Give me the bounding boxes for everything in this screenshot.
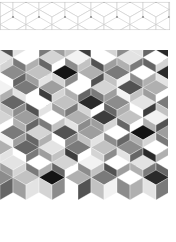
- vertex-dot: [142, 16, 144, 18]
- vertex-dot: [77, 31, 79, 32]
- rhombus-face-top: [169, 80, 176, 95]
- vertex-dot: [103, 31, 105, 32]
- vertex-dot: [155, 31, 157, 32]
- rhombus-face-top: [130, 0, 156, 2]
- rhombus-face-top: [169, 140, 176, 155]
- rhombus-face-left: [169, 148, 176, 171]
- rhombille-filled-svg: [0, 50, 176, 242]
- vertex-dot: [51, 31, 53, 32]
- vertex-dot: [25, 31, 27, 32]
- vertex-dot: [64, 16, 66, 18]
- rhombus-face-left: [169, 58, 176, 81]
- rhombus-face-top: [0, 0, 26, 2]
- tiling-group: [0, 0, 176, 32]
- vertex-dot: [77, 31, 79, 32]
- rhombus-face-top: [156, 0, 176, 2]
- rhombus-face-right: [169, 133, 176, 156]
- vertex-dot: [90, 16, 92, 18]
- rhombus-face-right: [169, 163, 176, 186]
- vertex-dot: [103, 31, 105, 32]
- rhombille-outline-svg: [0, 0, 176, 32]
- vertex-dot: [116, 16, 118, 18]
- rhombus-face-top: [26, 0, 52, 2]
- rhombus-face-top: [169, 170, 176, 185]
- rhombille-figure: [0, 0, 176, 242]
- rhombus-face-right: [169, 103, 176, 126]
- rhombus-face-top: [169, 110, 176, 125]
- vertex-dot: [0, 31, 1, 32]
- tiling-group: [0, 50, 176, 200]
- rhombus-face-right: [169, 73, 176, 96]
- vertex-dot: [129, 31, 131, 32]
- rhombus-face-left: [169, 118, 176, 141]
- rhombus-face-left: [169, 88, 176, 111]
- rhombille-filled-panel: [0, 50, 176, 242]
- vertex-dot: [51, 31, 53, 32]
- vertex-dot: [0, 31, 1, 32]
- rhombus-face-top: [78, 0, 104, 2]
- vertex-dot: [129, 31, 131, 32]
- vertex-dot: [25, 31, 27, 32]
- vertex-dot: [12, 16, 14, 18]
- vertex-dot: [38, 16, 40, 18]
- rhombus-face-left: [169, 178, 176, 201]
- rhombus-face-top: [104, 0, 130, 2]
- rhombus-face-top: [169, 50, 176, 65]
- rhombus-face-top: [52, 0, 78, 2]
- vertex-dot: [155, 31, 157, 32]
- rhombille-outline-panel: [0, 0, 176, 32]
- rhombus-face-right: [169, 50, 176, 65]
